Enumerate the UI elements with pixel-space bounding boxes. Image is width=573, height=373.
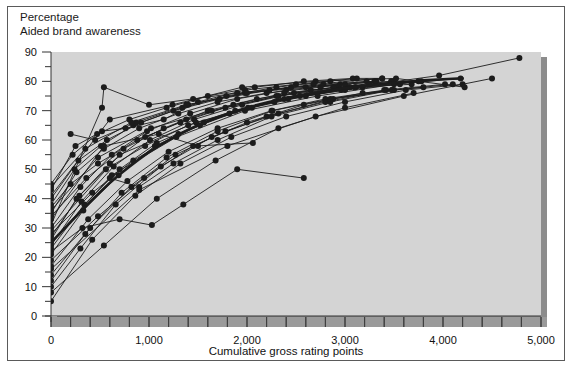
data-point [213,158,219,164]
data-point [48,278,54,284]
data-point [239,84,245,90]
data-point [420,84,426,90]
y-tick-label: 0 [31,310,37,322]
data-point [101,243,107,249]
data-point [95,155,101,161]
chart-canvas: 010203040506070809001,0002,0003,0004,000… [0,0,573,373]
data-point [301,175,307,181]
data-point [252,84,258,90]
data-point [48,184,54,190]
data-point [48,257,54,263]
data-point [379,75,385,81]
data-point [269,114,275,120]
data-point [48,216,54,222]
data-point [149,222,155,228]
data-point [136,187,142,193]
data-point [99,105,105,111]
data-point [275,125,281,131]
data-point [383,87,389,93]
x-tick-label: 5,000 [527,334,555,346]
data-point [393,75,399,81]
data-point [187,111,193,117]
data-point [234,166,240,172]
data-point [85,216,91,222]
data-point [180,202,186,208]
y-tick-label: 80 [25,75,37,87]
data-point [68,131,74,137]
data-point [82,146,88,152]
chart-figure: Percentage Aided brand awareness 0102030… [0,0,573,373]
data-point [389,87,395,93]
data-point [117,216,123,222]
data-point [109,172,115,178]
data-point [146,102,152,108]
y-tick-label: 60 [25,134,37,146]
data-point [136,125,142,131]
data-point [327,96,333,102]
data-point [79,225,85,231]
data-point [48,249,54,255]
data-point [128,119,134,125]
data-point [209,108,215,114]
x-tick-label: 4,000 [429,334,457,346]
data-point [117,152,123,158]
y-tick-label: 50 [25,163,37,175]
data-point [436,73,442,79]
data-point [107,117,113,123]
x-tick-label: 0 [48,334,54,346]
data-point [164,155,170,161]
data-point [166,149,172,155]
data-point [101,84,107,90]
data-point [77,246,83,252]
data-point [170,102,176,108]
data-point [101,143,107,149]
data-point [83,175,89,181]
data-point [171,161,177,167]
data-point [95,161,101,167]
y-tick-label: 70 [25,105,37,117]
data-point [154,196,160,202]
data-point [215,128,221,134]
data-point [489,75,495,81]
data-point [234,96,240,102]
data-point [48,228,54,234]
data-point [301,78,307,84]
x-axis-title: Cumulative gross rating points [209,345,364,357]
data-point [141,175,147,181]
data-point [73,143,79,149]
y-tick-label: 30 [25,222,37,234]
x-tick-label: 1,000 [135,334,163,346]
data-point [223,93,229,99]
data-point [48,207,54,213]
data-point [89,237,95,243]
data-point [342,105,348,111]
data-point [48,222,54,228]
data-point [70,152,76,158]
data-point [403,87,409,93]
data-point [311,81,317,87]
data-point [48,266,54,272]
data-point [48,193,54,199]
data-point [95,213,101,219]
y-tick-label: 40 [25,193,37,205]
data-point [183,102,189,108]
y-tick-label: 20 [25,251,37,263]
y-tick-label: 10 [25,281,37,293]
data-point [224,143,230,149]
data-point [411,90,417,96]
data-point [195,143,201,149]
data-point [462,84,468,90]
data-point [48,290,54,296]
data-point [119,190,125,196]
data-point [270,108,276,114]
data-point [148,125,154,131]
data-point [156,131,162,137]
data-point [48,272,54,278]
y-tick-label: 90 [25,46,37,58]
data-point [215,137,221,143]
data-point [516,55,522,61]
data-point [283,114,289,120]
data-point [244,90,250,96]
